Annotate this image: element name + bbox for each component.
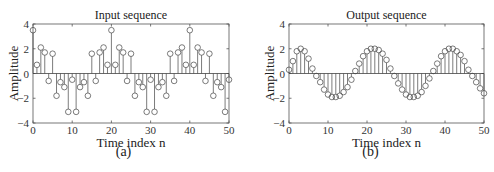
y-tick-label: 2 (280, 43, 286, 55)
stem-marker (124, 78, 130, 84)
y-tick-label: 0 (24, 68, 30, 80)
stem-marker (341, 89, 347, 95)
output-sequence-panel: 01020304050−4−2024Output sequenceTime in… (247, 0, 494, 172)
stem-marker (356, 61, 362, 67)
stem-marker (73, 109, 79, 115)
stem-marker (473, 79, 479, 85)
stem-marker (58, 79, 64, 85)
stem-marker (81, 79, 87, 85)
caption-b: (b) (247, 144, 494, 160)
stem-marker (191, 62, 197, 68)
stem-marker (54, 93, 60, 99)
stem-marker (399, 87, 405, 93)
stem-marker (160, 79, 166, 85)
stem-marker (148, 77, 154, 83)
stem-marker (333, 94, 339, 100)
stem-marker (392, 73, 398, 79)
x-tick-label: 40 (440, 124, 452, 136)
stem-marker (69, 77, 75, 83)
stem-marker (46, 78, 52, 84)
stem-marker (423, 83, 429, 89)
chart-title: Input sequence (95, 8, 167, 22)
stem-marker (477, 86, 483, 92)
stem-marker (306, 56, 312, 62)
y-tick-label: 4 (24, 18, 30, 30)
stem-marker (470, 73, 476, 79)
stem-marker (136, 79, 142, 85)
stem-marker (42, 50, 48, 56)
x-tick-label: 10 (67, 124, 79, 136)
stem-marker (163, 93, 169, 99)
stem-marker (152, 109, 158, 115)
stem-marker (207, 51, 213, 57)
stem-marker (466, 67, 472, 73)
stem-marker (345, 84, 351, 90)
stem-marker (388, 66, 394, 72)
stem-marker (38, 45, 44, 51)
stem-marker (167, 51, 173, 57)
stem-marker (353, 68, 359, 74)
stem-marker (175, 50, 181, 56)
stem-marker (222, 109, 228, 115)
stem-marker (187, 27, 193, 33)
stem-marker (109, 27, 115, 33)
stem-marker (97, 50, 103, 56)
stem-marker (101, 45, 107, 51)
stem-marker (360, 53, 366, 59)
y-tick-label: 2 (24, 43, 30, 55)
stem-marker (34, 62, 40, 68)
stem-marker (438, 53, 444, 59)
y-axis-label: Amplitude (262, 45, 277, 101)
x-tick-label: 10 (323, 124, 335, 136)
stem-marker (144, 109, 150, 115)
x-tick-label: 50 (224, 124, 236, 136)
stem-marker (218, 84, 224, 90)
y-tick-label: −4 (17, 117, 29, 129)
stem-marker (431, 68, 437, 74)
stem-marker (395, 81, 401, 87)
stem-marker (128, 51, 134, 57)
stem-marker (310, 66, 316, 72)
stem-marker (427, 76, 433, 82)
stem-marker (314, 73, 320, 79)
stem-marker (380, 51, 386, 57)
y-tick-label: 0 (280, 68, 286, 80)
stem-marker (462, 58, 468, 64)
x-tick-label: 0 (286, 124, 292, 136)
y-tick-label: −4 (273, 117, 285, 129)
stem-marker (214, 79, 220, 85)
stem-marker (349, 77, 355, 83)
chart-title: Output sequence (346, 8, 426, 22)
stem-marker (203, 78, 209, 84)
stem-marker (321, 87, 327, 93)
stem-marker (85, 93, 91, 99)
y-tick-label: 4 (280, 18, 286, 30)
stem-marker (156, 84, 162, 90)
stem-marker (419, 89, 425, 95)
x-tick-label: 0 (30, 124, 36, 136)
stem-marker (65, 109, 71, 115)
stem-marker (105, 62, 111, 68)
stem-marker (171, 78, 177, 84)
stem-marker (116, 45, 122, 51)
stem-marker (458, 52, 464, 58)
stem-marker (199, 50, 205, 56)
stem-marker (179, 45, 185, 51)
stem-marker (183, 62, 189, 68)
stem-marker (93, 78, 99, 84)
stem-marker (211, 93, 217, 99)
y-axis-label: Amplitude (6, 45, 21, 101)
stem-marker (384, 57, 390, 63)
stem-marker (411, 94, 417, 100)
stem-marker (132, 93, 138, 99)
stem-marker (372, 46, 378, 52)
input-sequence-panel: 01020304050−4−2024Input sequenceTime ind… (0, 0, 247, 172)
caption-a: (a) (0, 144, 247, 160)
stem-marker (195, 45, 201, 51)
stem-marker (317, 79, 323, 85)
stem-marker (89, 51, 95, 57)
stem-marker (62, 84, 68, 90)
stem-marker (434, 61, 440, 67)
stem-marker (120, 50, 126, 56)
x-tick-label: 40 (184, 124, 196, 136)
